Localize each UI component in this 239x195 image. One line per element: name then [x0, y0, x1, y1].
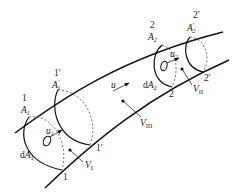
- V1-label: VI: [85, 160, 93, 171]
- section-2prime-label: 2′: [193, 10, 200, 20]
- lower-streamtube-wall: [45, 60, 229, 188]
- section-2prime-bottom-label: 2′: [204, 73, 211, 83]
- u1-label: u1: [46, 126, 54, 137]
- area-A2prime-label: A′2: [186, 21, 196, 34]
- section-1prime-bottom-label: 1′: [96, 143, 103, 153]
- area-A1-label: A1: [20, 105, 30, 116]
- section-1-back-arc: [29, 117, 64, 170]
- section-2-label: 2: [150, 20, 155, 30]
- area-A2-label: A2: [147, 32, 158, 43]
- section-1-label: 1: [22, 93, 27, 103]
- V3-label: VIII: [140, 118, 152, 129]
- section-1prime-back-arc: [58, 90, 93, 145]
- dA1-label: dA1: [20, 150, 34, 161]
- section-1-bottom-label: 1: [63, 172, 68, 182]
- u2-label: u2: [170, 49, 179, 60]
- u-label: u: [111, 80, 116, 90]
- section-1prime-label: 1′: [54, 68, 61, 78]
- upper-streamtube-wall: [15, 32, 223, 133]
- dA2-label: dA2: [143, 80, 157, 91]
- V2-label: VII: [193, 84, 203, 95]
- section-1prime-front-arc: [55, 90, 90, 145]
- section-2-bottom-label: 2: [169, 89, 174, 99]
- area-A1prime-label: A′1: [51, 78, 60, 91]
- dA2-element: [160, 61, 168, 72]
- streamtube-diagram: 1 A1 1′ A′1 2 A2 2′ A′2 1 1′ 2 2′ dA1 dA…: [0, 0, 239, 195]
